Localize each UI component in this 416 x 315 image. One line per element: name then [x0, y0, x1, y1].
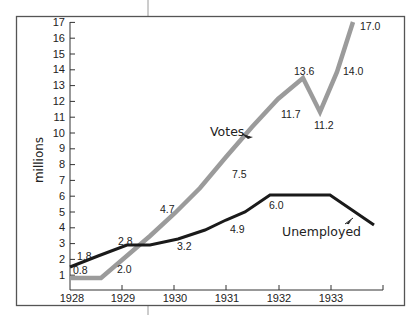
y-tick-label: 11 — [54, 111, 65, 123]
y-tick-label: 16 — [53, 32, 65, 44]
x-tick-label: 1931 — [215, 292, 239, 304]
y-tick-label: 13 — [53, 79, 65, 91]
y-tick-label: 5 — [59, 206, 65, 218]
data-label: 4.9 — [230, 223, 245, 235]
y-tick-label: 9 — [59, 142, 65, 154]
chart-canvas: 1 2 3 4 5 6 7 8 9 10 11 12 13 14 15 16 1… — [0, 0, 416, 315]
y-tick-label: 12 — [53, 95, 65, 107]
unemployed-series-label: Unemployed — [282, 224, 361, 239]
y-tick-label: 15 — [53, 48, 65, 60]
y-tick-label: 8 — [59, 158, 65, 170]
votes-line — [70, 22, 353, 278]
y-axis: 1 2 3 4 5 6 7 8 9 10 11 12 13 14 15 16 1… — [32, 16, 75, 290]
x-tick-label: 1928 — [60, 292, 84, 304]
x-tick-label: 1930 — [163, 292, 187, 304]
y-tick-label: 2 — [59, 253, 65, 265]
data-label: 17.0 — [360, 20, 381, 32]
y-tick-label: 10 — [53, 127, 65, 139]
y-axis-title: millions — [32, 137, 46, 183]
data-label: 14.0 — [343, 65, 364, 77]
data-label: 2.8 — [118, 235, 133, 247]
y-tick-label: 17 — [53, 16, 65, 28]
y-tick-label: 4 — [59, 221, 65, 233]
data-label: 6.0 — [269, 199, 284, 211]
y-tick-label: 3 — [59, 237, 65, 249]
data-label: 0.8 — [73, 264, 88, 276]
y-tick-label: 1 — [59, 269, 65, 281]
x-tick-label: 1932 — [267, 292, 291, 304]
chart-frame — [17, 17, 405, 306]
y-tick-label: 6 — [59, 190, 65, 202]
data-label: 1.8 — [77, 250, 92, 262]
x-tick-label: 1933 — [319, 292, 343, 304]
data-label: 4.7 — [160, 203, 175, 215]
data-label: 7.5 — [232, 168, 247, 180]
data-label: 11.2 — [314, 119, 334, 131]
data-label: 2.0 — [117, 263, 132, 275]
y-tick-label: 7 — [59, 174, 65, 186]
x-tick-label: 1929 — [111, 292, 135, 304]
data-label: 13.6 — [294, 65, 315, 77]
votes-series-label: Votes — [210, 124, 244, 139]
data-label: 3.2 — [177, 240, 192, 252]
x-axis: 1928 1929 1930 1931 1932 1933 — [60, 285, 383, 304]
y-tick-label: 14 — [53, 63, 65, 75]
data-label: 11.7 — [281, 108, 301, 120]
